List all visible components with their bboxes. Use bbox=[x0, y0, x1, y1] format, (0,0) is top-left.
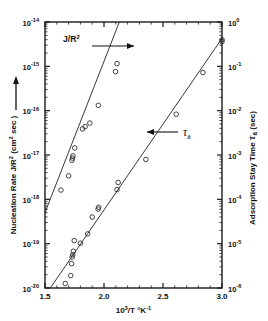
chart-background bbox=[0, 0, 268, 321]
y-axis-title-left: Nucleation Rate J/R2 (cm2 sec ) bbox=[8, 115, 18, 234]
nucleation-rate-chart: 10-1410-1510-1610-1710-1810-1910-20 1001… bbox=[0, 0, 268, 321]
y-axis-title-right: Adsorption Stay Time τa (sec) bbox=[246, 111, 258, 225]
x-tick-label: 3.0 bbox=[216, 292, 228, 301]
x-tick-label: 2.0 bbox=[98, 292, 110, 301]
x-tick-label: 1.5 bbox=[39, 292, 51, 301]
figure-root: 10-1410-1510-1610-1710-1810-1910-20 1001… bbox=[0, 0, 268, 321]
x-tick-label: 2.5 bbox=[157, 292, 169, 301]
